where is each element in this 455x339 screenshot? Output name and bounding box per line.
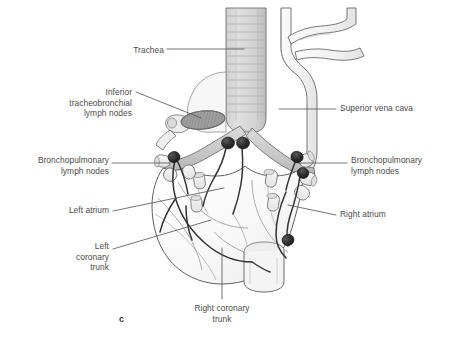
heart-body-group <box>152 166 302 292</box>
label-bronchopulmonary-lymph-nodes-left: Bronchopulmonary lymph nodes <box>18 155 109 176</box>
label-inferior-tracheobronchial-lymph-nodes: Inferior tracheobronchial lymph nodes <box>49 87 132 119</box>
bronchus-stump-lumen <box>167 118 176 128</box>
figure-letter: c <box>119 314 124 324</box>
label-superior-vena-cava: Superior vena cava <box>340 103 450 114</box>
label-right-atrium: Right atrium <box>340 209 410 220</box>
brachiocephalic-branch-lower <box>295 48 364 60</box>
label-trachea: Trachea <box>104 45 164 56</box>
brachiocephalic-branch-upper <box>288 8 356 44</box>
trachea-group <box>226 8 266 132</box>
bronchus-small-branch <box>156 130 176 150</box>
label-bronchopulmonary-lymph-nodes-right: Bronchopulmonary lymph nodes <box>351 155 449 176</box>
label-right-coronary-trunk: Right coronary trunk <box>174 303 270 324</box>
inferior-tracheobronchial-node-a <box>222 137 235 149</box>
pulmonary-vein-stump-2 <box>190 196 202 213</box>
label-left-atrium: Left atrium <box>50 205 109 216</box>
inferior-tracheobronchial-node-b <box>237 137 250 149</box>
anatomical-figure-panel: Trachea Inferior tracheobronchial lymph … <box>0 0 455 339</box>
label-left-coronary-trunk: Left coronary trunk <box>59 241 109 273</box>
trachea-body <box>226 8 266 132</box>
